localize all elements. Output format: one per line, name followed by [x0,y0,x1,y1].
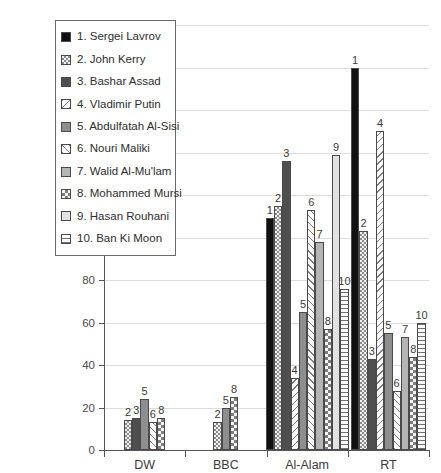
bar [401,337,409,450]
legend-swatch-icon [61,167,71,177]
legend-item-label: 4. Vladimir Putin [77,99,161,111]
bar-value-label: 2 [275,193,281,204]
legend-item-label: 10. Ban Ki Moon [77,233,162,245]
bar [132,418,140,450]
legend-swatch-icon [61,55,71,65]
bar [282,161,290,450]
legend-item-label: 8. Mohammed Mursi [77,188,182,200]
bar-value-label: 10 [338,276,350,287]
bar [417,323,425,451]
bar-value-label: 7 [402,324,408,335]
bar-value-label: 8 [410,344,416,355]
legend-item: 3. Bashar Assad [61,71,169,93]
bar-value-label: 6 [308,197,314,208]
legend-item: 6. Nouri Maliki [61,138,169,160]
legend-item-label: 9. Hasan Rouhani [77,211,169,223]
x-axis-tick-mark [429,451,430,457]
x-axis-tick-mark [267,451,268,457]
legend-item: 10. Ban Ki Moon [61,228,169,250]
bar [393,391,401,451]
bar-value-label: 8 [158,405,164,416]
legend-swatch-icon [61,32,71,42]
bar [213,422,221,450]
y-axis-tick-mark [99,323,105,324]
bar-chart: 020406080100120140160180200 235682581234… [0,0,441,473]
bar-value-label: 5 [142,386,148,397]
legend-item-label: 5. Abdulfatah Al-Sisi [77,121,179,133]
legend-item: 8. Mohammed Mursi [61,183,169,205]
bar [351,68,359,451]
y-axis-tick-label: 40 [82,359,95,371]
bar [409,357,417,451]
legend-swatch-icon [61,234,71,244]
bar-value-label: 3 [283,148,289,159]
bar-group-bbc: 258 [213,25,238,450]
legend-swatch-icon [61,211,71,221]
x-axis-category-label: Al-Alam [285,458,329,472]
legend-item-label: 2. John Kerry [77,54,145,66]
legend-swatch-icon [61,99,71,109]
bar-value-label: 7 [317,229,323,240]
bar [266,218,274,450]
x-axis-tick-mark [104,451,105,457]
legend-item: 4. Vladimir Putin [61,93,169,115]
legend-swatch-icon [61,144,71,154]
bar [315,242,323,450]
bar [376,131,384,450]
y-axis-tick-mark [99,280,105,281]
bar [222,408,230,451]
bar [299,312,307,450]
legend-swatch-icon [61,122,71,132]
bar-value-label: 5 [385,320,391,331]
bar [368,359,376,450]
bar-value-label: 5 [300,299,306,310]
x-axis-category-label: DW [134,458,155,472]
bar-value-label: 3 [133,405,139,416]
bar [274,206,282,450]
y-axis-tick-mark [99,408,105,409]
legend-item: 7. Walid Al-Mu'lam [61,160,169,182]
bar-value-label: 2 [360,218,366,229]
bar [332,155,340,450]
x-axis-tick-mark [185,451,186,457]
bar-value-label: 4 [377,118,383,129]
bar [359,231,367,450]
bar-value-label: 1 [352,55,358,66]
legend-item: 1. Sergei Lavrov [61,26,169,48]
bar [149,422,157,450]
bar-value-label: 8 [325,316,331,327]
bar [124,420,132,450]
bar [291,378,299,450]
legend-item: 2. John Kerry [61,48,169,70]
legend-item-label: 1. Sergei Lavrov [77,31,161,43]
bar [307,210,315,450]
legend-item: 9. Hasan Rouhani [61,205,169,227]
y-axis-tick-label: 80 [82,274,95,286]
bar-group-rt: 1234567810 [351,25,426,450]
bar [340,289,348,451]
y-axis-tick-label: 60 [82,317,95,329]
legend-item-label: 7. Walid Al-Mu'lam [77,166,171,178]
bar-value-label: 8 [231,384,237,395]
y-axis-tick-label: 0 [89,444,95,456]
legend: 1. Sergei Lavrov2. John Kerry3. Bashar A… [55,20,176,256]
legend-item-label: 3. Bashar Assad [77,76,161,88]
bar-value-label: 2 [125,407,131,418]
bar-value-label: 1 [267,205,273,216]
bar-value-label: 5 [223,395,229,406]
bar-value-label: 6 [150,409,156,420]
bar [384,333,392,450]
bar-value-label: 9 [333,142,339,153]
y-axis-tick-label: 20 [82,402,95,414]
legend-swatch-icon [61,77,71,87]
y-axis-tick-mark [99,365,105,366]
bar [157,418,165,450]
bar-value-label: 4 [292,365,298,376]
bar-group-al-alam: 12345678910 [266,25,349,450]
legend-item: 5. Abdulfatah Al-Sisi [61,116,169,138]
bar-value-label: 3 [369,346,375,357]
bar [230,397,238,450]
bar-value-label: 6 [394,378,400,389]
legend-item-label: 6. Nouri Maliki [77,143,150,155]
bar [140,399,148,450]
